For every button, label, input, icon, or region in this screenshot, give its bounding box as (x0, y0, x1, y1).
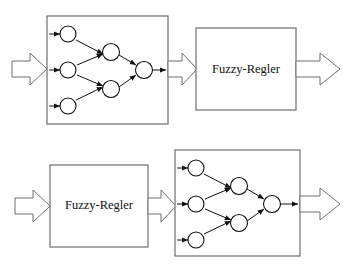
nn-node-hidden-2 (103, 81, 120, 98)
nn-node-input-3 (60, 98, 76, 114)
fuzzy-regler-box-top: Fuzzy-Regler (196, 28, 296, 110)
arrow-top-out (296, 53, 340, 85)
nn-node-hidden-1 (231, 178, 248, 195)
nn-node-input-1 (188, 160, 204, 176)
nn-node-input-2 (188, 196, 204, 212)
nn-node-output-1 (264, 196, 281, 213)
arrow-bottom-in (15, 190, 50, 222)
row-bottom: Fuzzy-Regler (15, 150, 340, 256)
fuzzy-regler-box-bottom: Fuzzy-Regler (50, 165, 148, 247)
arrow-top-in (12, 53, 47, 85)
fuzzy-regler-label-bottom: Fuzzy-Regler (65, 198, 134, 212)
row-top: Fuzzy-Regler (12, 16, 340, 124)
fuzzy-regler-label-top: Fuzzy-Regler (212, 62, 281, 76)
nn-node-hidden-1 (103, 44, 120, 61)
arrow-top-mid (168, 53, 197, 85)
arrow-bottom-out (300, 188, 340, 220)
diagram-canvas: Fuzzy-Regler Fuzzy-Regler (0, 0, 345, 273)
nn-node-input-2 (60, 62, 76, 78)
nn-node-hidden-2 (231, 215, 248, 232)
diagram-svg: Fuzzy-Regler Fuzzy-Regler (0, 0, 345, 273)
arrow-bottom-mid (148, 190, 176, 222)
nn-node-output-1 (136, 62, 153, 79)
nn-node-input-3 (188, 232, 204, 248)
nn-node-input-1 (60, 26, 76, 42)
